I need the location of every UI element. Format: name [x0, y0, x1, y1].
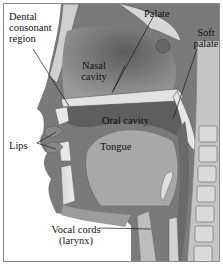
label-line: consonant: [9, 22, 52, 33]
label-line: Soft: [190, 27, 220, 38]
label-tongue: Tongue: [100, 141, 131, 152]
diagram-frame: Dental consonant region Palate Soft pala…: [3, 3, 220, 262]
label-line: Nasal: [74, 60, 114, 71]
label-line: region: [9, 33, 52, 44]
label-nasal-cavity: Nasal cavity: [74, 60, 114, 82]
label-oral-cavity: Oral cavity: [102, 115, 149, 126]
label-soft-palate: Soft palate: [190, 27, 220, 49]
label-lips: Lips: [9, 140, 28, 151]
label-vocal-cords: Vocal cords (larynx): [48, 224, 104, 246]
label-line: (larynx): [48, 235, 104, 246]
label-line: Dental: [9, 11, 52, 22]
label-line: cavity: [74, 71, 114, 82]
label-line: palate: [190, 38, 220, 49]
label-palate: Palate: [144, 8, 170, 19]
label-dental-consonant-region: Dental consonant region: [9, 11, 52, 44]
label-line: Vocal cords: [48, 224, 104, 235]
